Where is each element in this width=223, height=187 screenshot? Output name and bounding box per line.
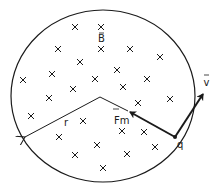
- field-cross-icon: [127, 46, 133, 52]
- field-cross-icon: [114, 67, 120, 73]
- field-cross-icon: [98, 46, 104, 52]
- field-cross-icon: [119, 128, 125, 134]
- field-cross-icon: [141, 129, 147, 135]
- force-label-text: Fm: [114, 115, 130, 126]
- field-cross-icon: [70, 86, 76, 92]
- field-cross-icon: [120, 84, 126, 90]
- field-cross-icon: [135, 100, 141, 106]
- field-cross-icon: [157, 54, 163, 60]
- magnetic-force-arrow: [130, 112, 175, 137]
- field-cross-icon: [94, 142, 100, 148]
- field-cross-icon: [98, 24, 104, 30]
- field-cross-icon: [152, 144, 158, 150]
- field-cross-icon: [100, 165, 106, 171]
- field-cross-icon: [72, 24, 78, 30]
- radius-vector: [25, 97, 128, 137]
- velocity-arrow: [175, 94, 203, 137]
- magnetic-field-diagram: B r Fm v q: [0, 0, 223, 187]
- force-label: Fm: [113, 109, 130, 126]
- field-label-text: B: [98, 33, 105, 44]
- radius-label: r: [64, 117, 69, 128]
- field-cross-icon: [55, 46, 61, 52]
- field-cross-icon: [28, 113, 34, 119]
- field-cross-icon: [56, 134, 62, 140]
- field-cross-icon: [77, 59, 83, 65]
- field-crosses: [20, 24, 173, 171]
- field-cross-icon: [46, 95, 52, 101]
- field-cross-icon: [72, 152, 78, 158]
- field-cross-icon: [49, 71, 55, 77]
- charge-label: q: [177, 139, 183, 150]
- field-label: B: [98, 33, 105, 44]
- velocity-label-text: v: [204, 77, 210, 88]
- field-cross-icon: [80, 118, 86, 124]
- field-cross-icon: [167, 96, 173, 102]
- field-cross-icon: [92, 76, 98, 82]
- field-cross-icon: [20, 77, 26, 83]
- field-cross-icon: [124, 151, 130, 157]
- velocity-label: v: [204, 75, 210, 88]
- field-cross-icon: [144, 76, 150, 82]
